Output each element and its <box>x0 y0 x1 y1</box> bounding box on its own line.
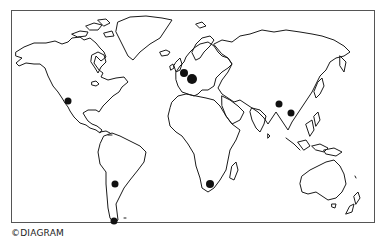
north-america-coast <box>16 37 128 133</box>
location-marker <box>111 218 118 225</box>
japan-coast <box>314 78 324 98</box>
philippines <box>314 112 320 126</box>
asia-coast <box>214 30 350 130</box>
scandinavia-coast <box>192 36 214 60</box>
iceland-coast <box>160 50 170 56</box>
british-isles-coast <box>170 58 182 72</box>
europe-coast <box>176 42 232 96</box>
sri-lanka <box>268 134 270 138</box>
great-lakes <box>92 81 99 86</box>
location-marker <box>65 98 72 105</box>
location-marker <box>276 101 283 108</box>
new-guinea-coast <box>324 148 342 156</box>
location-marker <box>187 74 197 84</box>
south-america-coast <box>98 133 146 223</box>
location-marker <box>112 181 119 188</box>
location-marker <box>180 69 188 77</box>
tasmania-coast <box>332 204 336 208</box>
greenland-coast <box>116 16 172 60</box>
caribbean-islands <box>100 131 112 135</box>
copyright-credit: ©DIAGRAM <box>11 228 64 238</box>
pacific-islands <box>355 176 356 178</box>
svalbard <box>196 22 206 28</box>
location-marker <box>206 180 214 188</box>
new-zealand-coast <box>346 192 360 214</box>
indonesia-islands <box>286 120 328 152</box>
world-map <box>0 0 387 242</box>
australia-coast <box>300 160 346 200</box>
kamchatka-coast <box>340 56 346 72</box>
location-marker <box>288 110 295 117</box>
arctic-islands <box>72 19 114 37</box>
africa-coast <box>168 94 240 192</box>
madagascar-coast <box>230 162 238 180</box>
